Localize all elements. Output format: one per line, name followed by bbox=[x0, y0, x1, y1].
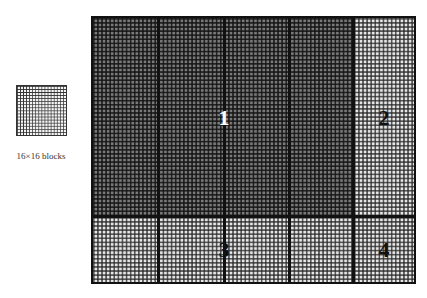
region-divider-vertical bbox=[352, 18, 355, 282]
block-divider-v3 bbox=[288, 18, 291, 282]
region-1-label: 1 bbox=[219, 107, 230, 129]
region-divider-horizontal bbox=[93, 215, 414, 218]
region-3-label: 3 bbox=[219, 239, 230, 261]
region-2-label: 2 bbox=[379, 107, 390, 129]
sample-16x16-block bbox=[16, 85, 67, 136]
sample-block-caption: 16×16 blocks bbox=[4, 151, 78, 161]
block-divider-v1 bbox=[157, 18, 160, 282]
region-4-label: 4 bbox=[379, 239, 390, 261]
frame-partition: 1 2 3 4 bbox=[91, 16, 416, 284]
